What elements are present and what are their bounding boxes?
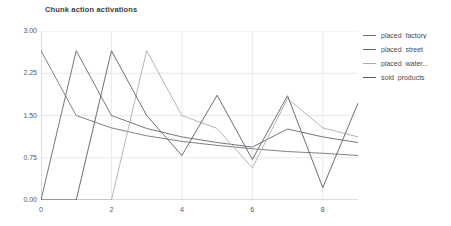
legend-item-4[interactable]: sold_products (363, 70, 451, 84)
legend-item-label: placed_factory (381, 32, 427, 39)
x-tick-label: 6 (242, 206, 262, 213)
x-tick-label: 4 (172, 206, 192, 213)
y-tick-label: 3.00 (9, 27, 37, 34)
y-tick-label: 0.75 (9, 154, 37, 161)
plot-area (41, 31, 358, 200)
x-tick-label: 8 (313, 206, 333, 213)
y-tick-label: 2.25 (9, 69, 37, 76)
legend-line-icon (363, 35, 376, 36)
chart-svg (41, 31, 358, 200)
legend-line-icon (363, 77, 376, 78)
legend-item-3[interactable]: placed_water... (363, 56, 451, 70)
y-tick-label: 0.00 (9, 196, 37, 203)
y-tick-label: 1.50 (9, 112, 37, 119)
chart-title: Chunk action activations (45, 5, 137, 14)
chart-legend: placed_factoryplaced_streetplaced_water.… (363, 28, 451, 84)
legend-item-label: placed_street (381, 46, 423, 53)
legend-item-label: sold_products (381, 74, 425, 81)
legend-line-icon (363, 63, 376, 64)
legend-line-icon (363, 49, 376, 50)
legend-item-label: placed_water... (381, 60, 428, 67)
gridlines (41, 31, 358, 200)
chart-root: Chunk action activations 0.000.751.502.2… (0, 0, 451, 226)
x-tick-label: 0 (31, 206, 51, 213)
x-tick-label: 2 (101, 206, 121, 213)
legend-item-2[interactable]: placed_street (363, 42, 451, 56)
legend-item-1[interactable]: placed_factory (363, 28, 451, 42)
